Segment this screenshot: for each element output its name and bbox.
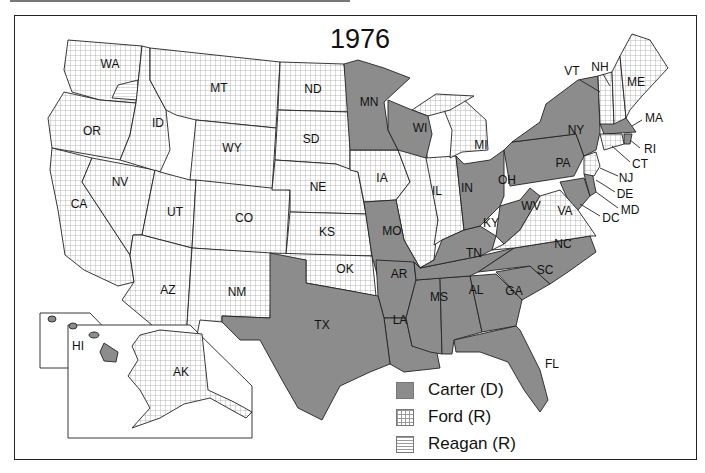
label-al: AL [469,283,484,297]
label-nv: NV [112,175,129,189]
label-mo: MO [382,224,401,238]
label-va: VA [557,204,572,218]
legend-label-carter: Carter (D) [428,380,504,400]
label-il: IL [432,184,442,198]
label-nj: NJ [619,171,634,185]
label-sc: SC [537,263,554,277]
label-vt: VT [564,64,580,78]
state-az [122,235,192,340]
label-ne: NE [310,180,327,194]
label-ri: RI [644,142,656,156]
label-mn: MN [360,95,379,109]
reagan-swatch [396,436,414,453]
label-ak: AK [173,365,189,379]
label-nd: ND [304,82,322,96]
label-de: DE [617,187,634,201]
label-ia: IA [376,171,387,185]
state-wy [190,120,276,190]
label-ok: OK [336,262,353,276]
legend: Carter (D) Ford (R) Reagan (R) [396,378,516,459]
label-ut: UT [167,205,184,219]
label-ks: KS [319,225,335,239]
carter-swatch [396,382,414,399]
label-tn: TN [466,246,482,260]
label-ms: MS [430,290,448,304]
label-az: AZ [160,283,175,297]
label-oh: OH [498,173,516,187]
label-ma: MA [645,111,663,125]
label-ny: NY [568,123,585,137]
state-ri [624,134,632,144]
label-sd: SD [303,132,320,146]
label-la: LA [393,313,408,327]
label-wa: WA [101,57,120,71]
label-ct: CT [632,157,649,171]
label-ca: CA [71,197,88,211]
state-nj [584,152,600,176]
label-me: ME [627,75,645,89]
label-ar: AR [391,267,408,281]
state-ct [600,134,624,150]
label-ky: KY [483,216,499,230]
label-mt: MT [210,81,228,95]
label-nh: NH [591,60,608,74]
label-nc: NC [554,237,572,251]
label-co: CO [235,211,253,225]
label-hi: HI [72,339,84,353]
legend-item-ford: Ford (R) [396,405,516,429]
label-wv: WV [521,199,540,213]
ford-swatch [396,409,414,426]
label-mi: MI [474,138,487,152]
label-id: ID [152,116,164,130]
legend-item-reagan: Reagan (R) [396,432,516,456]
label-tx: TX [314,318,329,332]
label-wy: WY [222,141,241,155]
label-or: OR [83,124,101,138]
legend-label-ford: Ford (R) [428,407,491,427]
label-ga: GA [505,284,522,298]
map-title: 1976 [330,24,390,55]
label-md: MD [621,203,640,217]
us-map: WA OR CA NV ID MT WY UT CO AZ NM ND SD N… [0,0,705,473]
label-dc: DC [602,211,620,225]
label-nm: NM [228,285,247,299]
label-fl: FL [545,357,559,371]
legend-item-carter: Carter (D) [396,378,516,402]
label-wi: WI [413,121,428,135]
label-in: IN [461,181,473,195]
label-pa: PA [555,156,570,170]
legend-label-reagan: Reagan (R) [428,434,516,454]
